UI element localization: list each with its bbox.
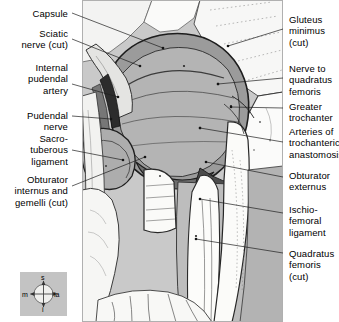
label-gluteus-minimus: Gluteus minimus (cut) — [289, 14, 339, 48]
label-pudendal-nerve: Pudendal nerve — [2, 110, 68, 133]
label-internal-pudendal: Internal pudendal artery — [2, 62, 68, 96]
label-quadratus-femoris: Quadratus femoris (cut) — [289, 248, 339, 282]
label-obturator-internus: Obturator internus and gemelli (cut) — [0, 174, 68, 208]
label-sacrotuberous: Sacro- tuberous ligament — [2, 133, 68, 167]
label-sciatic-nerve: Sciatic nerve (cut) — [2, 28, 68, 51]
anatomy-figure: CapsuleSciatic nerve (cut)Internal puden… — [0, 0, 339, 322]
compass-inferior-label: i — [42, 306, 44, 313]
label-greater-trochanter: Greater trochanter — [289, 101, 339, 124]
label-ischiofemoral: Ischio- femoral ligament — [289, 204, 339, 238]
orientation-compass: s i m la — [20, 272, 67, 316]
label-capsule: Capsule — [2, 8, 68, 19]
compass-superior-label: s — [41, 274, 45, 281]
compass-medial-label: m — [22, 291, 28, 298]
compass-lateral-label: la — [54, 291, 59, 298]
label-obturator-externus: Obturator externus — [289, 170, 339, 193]
label-nerve-to-quadratus: Nerve to quadratus femoris — [289, 63, 339, 97]
label-arteries-trochanteric: Arteries of trochanteric anastomosis — [289, 126, 339, 160]
anatomical-illustration — [82, 0, 283, 322]
